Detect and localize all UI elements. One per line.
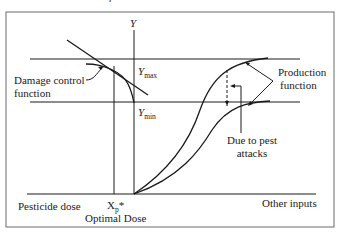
damage-control-label-line2: function: [14, 87, 51, 99]
pest-label-line1: Due to pest: [222, 134, 282, 146]
xp-base: X: [107, 199, 115, 211]
gap-arrow-down: [225, 101, 229, 106]
damage-leader: [86, 68, 102, 80]
ymax-sub: max: [144, 71, 157, 80]
xp-label: Xp*: [107, 199, 124, 213]
pest-arrow-icon: [230, 84, 235, 88]
y-axis-label: Y: [130, 17, 136, 29]
x-left-label: Pesticide dose: [18, 200, 81, 212]
figure-frame: [6, 12, 334, 227]
pest-label-line2: attacks: [222, 147, 282, 159]
production-label-line1: Production: [278, 66, 326, 78]
damage-control-diagram: r Y Ymax Ymin Damage control function Pr…: [0, 0, 338, 233]
xp-sup: *: [119, 199, 125, 211]
top-fragment: r: [109, 0, 113, 4]
damage-arrow-icon: [98, 66, 104, 70]
ymin-sub: min: [144, 112, 156, 121]
damage-control-label-line1: Damage control: [14, 74, 85, 86]
ymax-label: Ymax: [138, 65, 157, 79]
production-leader-upper: [246, 63, 273, 81]
production-label-line2: function: [280, 79, 317, 91]
optimal-dose-label: Optimal Dose: [85, 212, 146, 224]
x-right-label: Other inputs: [262, 197, 317, 209]
ymin-label: Ymin: [138, 106, 156, 120]
